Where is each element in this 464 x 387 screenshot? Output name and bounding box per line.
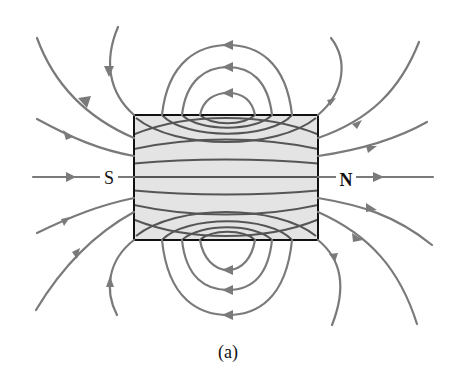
top-loop-field-lines <box>162 40 292 115</box>
bar-magnet <box>130 115 322 240</box>
arrow-left-icon <box>222 88 233 98</box>
bottom-loop-field-lines <box>162 240 292 320</box>
figure-caption: (a) <box>218 342 238 363</box>
arrow-right-icon <box>373 172 384 182</box>
arrow-left-icon <box>222 265 233 275</box>
arrow-icon <box>366 146 377 153</box>
arrow-right-icon <box>66 172 76 182</box>
arrow-icon <box>366 203 377 212</box>
arrow-left-icon <box>222 285 233 295</box>
right-outer-field-lines <box>318 38 432 325</box>
arrow-up-icon <box>106 276 114 287</box>
arrow-left-icon <box>222 40 233 50</box>
north-pole-label: N <box>340 170 353 190</box>
arrow-icon <box>63 130 73 140</box>
left-outer-field-lines <box>36 27 134 315</box>
arrow-left-icon <box>222 62 233 72</box>
arrow-left-icon <box>222 310 233 320</box>
south-pole-label: S <box>104 168 114 188</box>
arrow-down-icon <box>104 66 114 77</box>
bar-magnet-field-diagram: S N (a) <box>0 0 464 387</box>
arrow-icon <box>61 217 70 226</box>
